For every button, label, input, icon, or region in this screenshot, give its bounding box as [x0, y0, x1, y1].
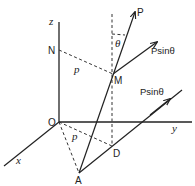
y-axis-label: y: [171, 122, 177, 134]
z-axis-label: z: [48, 15, 54, 27]
psin-lower-label: Psinθ: [140, 86, 164, 97]
line-od: [59, 122, 112, 146]
point-n-label: N: [48, 45, 55, 56]
x-axis: [4, 122, 59, 166]
force-p-line: [79, 12, 135, 173]
distance-p-upper-label: p: [73, 63, 80, 75]
force-psin-lower-arrow: [150, 99, 170, 115]
point-m-label: M: [114, 75, 122, 86]
x-axis-label: x: [15, 154, 21, 166]
point-a-label: A: [75, 175, 82, 186]
angle-theta-label: θ: [115, 37, 121, 49]
line-nm: [59, 50, 113, 74]
force-p-label: P: [137, 7, 144, 18]
psin-upper-label: Psinθ: [151, 45, 175, 56]
point-o-label: O: [48, 117, 56, 128]
point-d-label: D: [113, 148, 120, 159]
angle-marker: [112, 34, 125, 35]
distance-p-lower-label: p: [71, 130, 78, 142]
force-diagram: z y x O N M D A P p p θ Psinθ Psinθ: [0, 0, 195, 186]
